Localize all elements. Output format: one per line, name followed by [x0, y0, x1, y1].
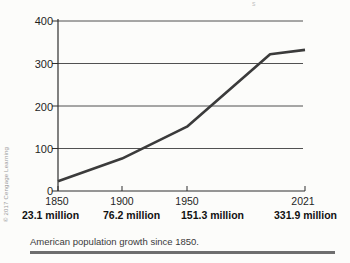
y-axis-tick-label-200: 200	[20, 100, 53, 114]
y-axis-tick-label-300: 300	[20, 57, 53, 71]
x-axis-tick-label-1850: 1850	[32, 195, 82, 207]
stray-mark: s	[252, 0, 256, 7]
x-axis-tick-label-1900: 1900	[97, 195, 147, 207]
value-label-1850: 23.1 million	[22, 209, 79, 221]
value-label-1900: 76.2 million	[103, 209, 160, 221]
chart-canvas	[0, 0, 350, 263]
y-axis-tick-label-100: 100	[20, 142, 53, 156]
divider-bar	[30, 251, 335, 254]
figure-caption: American population growth since 1850.	[30, 236, 199, 247]
copyright-credit: © 2017 Cengage Learning	[3, 147, 9, 222]
x-axis-tick-label-2021: 2021	[278, 195, 328, 207]
value-label-1950: 151.3 million	[181, 209, 244, 221]
x-axis-tick-label-1950: 1950	[162, 195, 212, 207]
value-label-2021: 331.9 million	[274, 209, 337, 221]
y-axis-tick-label-400: 400	[20, 14, 53, 28]
population-chart-figure: s 400 300 200 100 0 1850 1900 1950 2021 …	[0, 0, 350, 263]
population-line	[58, 50, 305, 181]
